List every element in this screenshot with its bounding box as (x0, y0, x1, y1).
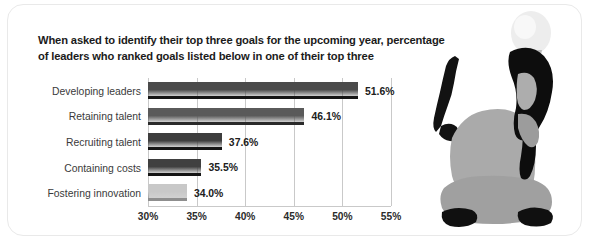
x-tick-label: 40% (235, 211, 255, 222)
bar-shadow-edge (148, 173, 201, 176)
chart-title-line-1: When asked to identify their top three g… (38, 33, 368, 49)
x-tick-label: 35% (186, 211, 206, 222)
category-label: Developing leaders (52, 85, 141, 96)
value-label: 51.6% (365, 85, 394, 96)
chart-title: When asked to identify their top three g… (38, 33, 368, 64)
gridline-55% (391, 78, 392, 206)
bar-1: 51.6% (148, 82, 358, 99)
bar-row: Recruiting talent37.6% (148, 129, 391, 155)
value-label: 46.1% (311, 111, 340, 122)
bar-row: Fostering innovation34.0% (148, 180, 391, 206)
bar-5: 34.0% (148, 184, 187, 201)
x-tick-label: 50% (332, 211, 352, 222)
x-tick-label: 55% (381, 211, 401, 222)
chart-figure: When asked to identify their top three g… (0, 0, 589, 240)
bar-shadow-edge (148, 198, 187, 201)
bar-fill (148, 184, 187, 198)
bar-shadow-edge (148, 122, 304, 125)
bar-shadow-edge (148, 96, 358, 99)
bar-fill (148, 133, 222, 147)
bar-row: Developing leaders51.6% (148, 78, 391, 104)
x-tick-label: 45% (284, 211, 304, 222)
bar-4: 35.5% (148, 159, 201, 176)
value-label: 37.6% (229, 136, 258, 147)
bar-row: Retaining talent46.1% (148, 104, 391, 130)
category-label: Fostering innovation (47, 188, 141, 199)
bar-fill (148, 108, 304, 122)
bar-3: 37.6% (148, 133, 222, 150)
x-tick-label: 30% (138, 211, 158, 222)
bar-shadow-edge (148, 147, 222, 150)
x-axis-line (148, 206, 391, 207)
plot-area: Developing leaders51.6%Retaining talent4… (148, 78, 391, 206)
bar-row: Containing costs35.5% (148, 155, 391, 181)
bar-fill (148, 159, 201, 173)
chart-title-line-2: of leaders who ranked goals listed below… (38, 49, 368, 65)
value-label: 34.0% (194, 187, 223, 198)
bar-fill (148, 82, 358, 96)
value-label: 35.5% (208, 162, 237, 173)
bar-2: 46.1% (148, 108, 304, 125)
category-label: Containing costs (64, 162, 141, 173)
category-label: Recruiting talent (66, 136, 141, 147)
category-label: Retaining talent (69, 111, 141, 122)
